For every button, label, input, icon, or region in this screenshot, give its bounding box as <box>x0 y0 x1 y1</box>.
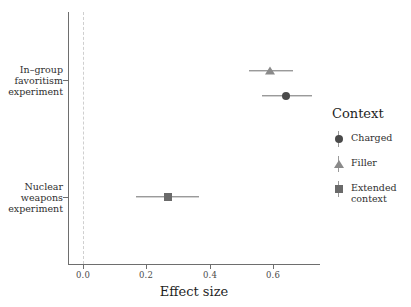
data-point-charged <box>282 92 290 100</box>
x-tick-label: 0.0 <box>76 270 90 280</box>
x-axis-title: Effect size <box>160 284 228 299</box>
y-tick-mark <box>63 197 68 198</box>
y-axis-line <box>68 12 69 265</box>
legend-label: Filler <box>351 155 377 169</box>
legend-item-extended-context[interactable]: Extended context <box>332 180 397 204</box>
x-tick-mark <box>210 265 211 269</box>
x-tick-mark <box>146 265 147 269</box>
x-tick-label: 0.2 <box>139 270 153 280</box>
effect-size-forest-plot: 0.0 0.2 0.4 0.6 In–group favoritism expe… <box>0 0 411 307</box>
y-tick-mark <box>63 80 68 81</box>
y-tick-label-nuclear: Nuclear weapons experiment <box>8 181 63 214</box>
legend-key-square-icon <box>332 180 346 198</box>
data-point-filler <box>265 67 275 75</box>
legend: Context Charged Filler Extended context <box>332 106 397 211</box>
legend-key-triangle-icon <box>332 155 346 173</box>
legend-key-circle-icon <box>332 130 346 148</box>
zero-reference-line <box>83 12 85 264</box>
legend-item-filler[interactable]: Filler <box>332 155 397 173</box>
x-tick-label: 0.4 <box>203 270 217 280</box>
x-axis-line <box>68 264 320 265</box>
legend-item-charged[interactable]: Charged <box>332 130 397 148</box>
x-tick-label: 0.6 <box>266 270 280 280</box>
legend-label: Charged <box>351 130 392 144</box>
y-tick-label-ingroup: In–group favoritism experiment <box>8 64 63 97</box>
x-tick-mark <box>273 265 274 269</box>
data-point-extended-context <box>164 193 172 201</box>
legend-label: Extended context <box>351 180 397 204</box>
legend-title: Context <box>332 106 397 121</box>
x-tick-mark <box>83 265 84 269</box>
